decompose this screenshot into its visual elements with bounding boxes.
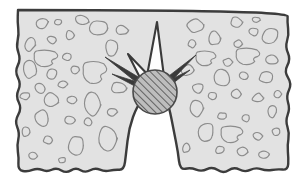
inclusion-group (133, 70, 177, 114)
hatched-inclusion-circle (133, 70, 177, 114)
material-cross-section-figure (0, 0, 305, 183)
cross-section-canvas (0, 0, 305, 183)
